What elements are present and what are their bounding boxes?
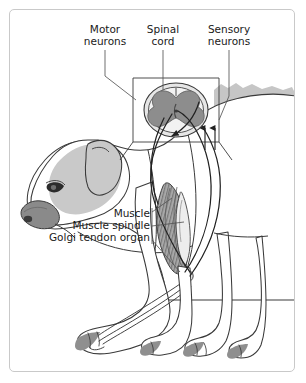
label-sensory-neurons: Sensory neurons [196,24,262,48]
label-golgi-tendon-organ: Golgi tendon organ [12,232,150,244]
diagram-artwork [0,0,306,383]
spinal-cord-cross-section [144,83,208,137]
label-muscle-spindle: Muscle spindle [26,220,150,232]
label-spinal-cord: Spinal cord [139,24,187,48]
leader-motor [105,50,136,100]
anatomical-figure: Motor neurons Spinal cord Sensory neuron… [0,0,306,383]
label-motor-neurons: Motor neurons [74,24,136,48]
label-muscle: Muscle [46,208,150,220]
